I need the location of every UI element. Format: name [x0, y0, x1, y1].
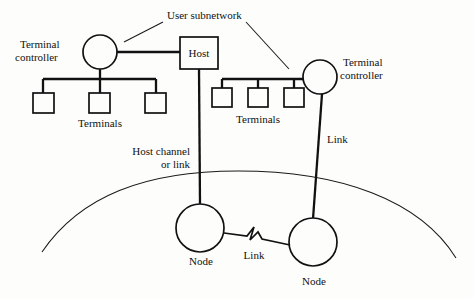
label-link-right: Link: [327, 133, 348, 145]
label-terminals-left: Terminals: [78, 117, 122, 129]
label-host-channel-line2: or link: [161, 158, 191, 170]
link-host-to-node-left: [199, 69, 200, 204]
user-subnetwork-leader-left: [124, 22, 163, 42]
node-left-circle: [176, 204, 224, 252]
terminal-controller-left-circle: [83, 35, 117, 69]
terminal-square-right-3: [284, 88, 304, 107]
label-terminal-controller-left-line1: Terminal: [20, 38, 60, 50]
network-diagram: User subnetwork Terminal controller Host…: [0, 0, 474, 298]
terminal-square-left-2: [89, 93, 110, 113]
label-host-channel-line1: Host channel: [132, 145, 190, 157]
terminal-controller-right-circle: [303, 60, 337, 94]
label-terminal-controller-right-line2: controller: [340, 69, 383, 81]
label-host: Host: [189, 47, 210, 59]
communication-subnetwork-arc: [42, 171, 456, 258]
terminal-square-left-3: [145, 93, 166, 113]
label-node-left: Node: [189, 255, 213, 267]
node-right-circle: [289, 218, 337, 266]
label-terminal-controller-right-line1: Terminal: [343, 56, 383, 68]
figure-canvas: User subnetwork Terminal controller Host…: [0, 0, 474, 298]
terminal-square-right-1: [212, 88, 232, 107]
label-user-subnetwork: User subnetwork: [167, 9, 242, 21]
terminal-square-right-2: [248, 88, 268, 107]
user-subnetwork-leader-right: [246, 22, 289, 69]
label-terminals-right: Terminals: [236, 113, 280, 125]
label-terminal-controller-left-line2: controller: [15, 51, 58, 63]
label-node-right: Node: [302, 275, 326, 287]
terminal-square-left-1: [33, 93, 54, 113]
link-controller-right-to-node-right: [313, 94, 322, 219]
link-node-to-node-zigzag: [224, 227, 290, 245]
label-link-bottom: Link: [244, 249, 265, 261]
